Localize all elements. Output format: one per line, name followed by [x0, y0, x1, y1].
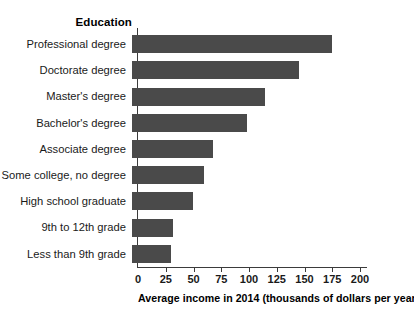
bar-row: Professional degree [0, 31, 414, 57]
bar-row: Doctorate degree [0, 57, 414, 83]
bar [132, 219, 173, 237]
x-tick-mark [360, 267, 361, 272]
bar-container [132, 57, 299, 83]
x-tick-mark [249, 267, 250, 272]
bar-category-label: Less than 9th grade [0, 248, 132, 260]
bar-category-label: Bachelor's degree [0, 117, 132, 129]
bar-rows: Professional degreeDoctorate degreeMaste… [0, 31, 414, 267]
bar-category-label: Professional degree [0, 38, 132, 50]
bar-row: High school graduate [0, 188, 414, 214]
bar-category-label: Some college, no degree [0, 169, 132, 181]
bar-row: Associate degree [0, 136, 414, 162]
bar-container [132, 241, 171, 267]
bar-category-label: Associate degree [0, 143, 132, 155]
bar-row: Less than 9th grade [0, 241, 414, 267]
bar-category-label: Doctorate degree [0, 64, 132, 76]
bar-container [132, 83, 265, 109]
x-tick-mark [221, 267, 222, 272]
bar-row: 9th to 12th grade [0, 215, 414, 241]
x-tick-mark [166, 267, 167, 272]
x-tick-mark [277, 267, 278, 272]
bar [132, 166, 204, 184]
x-tick-label: 25 [160, 273, 172, 285]
x-tick-label: 150 [295, 273, 313, 285]
bar [132, 88, 265, 106]
bar-category-label: Master's degree [0, 90, 132, 102]
bar [132, 245, 171, 263]
bar-container [132, 215, 173, 241]
x-tick-label: 200 [351, 273, 369, 285]
x-axis-title: Average income in 2014 (thousands of dol… [138, 292, 383, 304]
x-tick-mark [332, 267, 333, 272]
bar-row: Master's degree [0, 83, 414, 109]
bar-container [132, 188, 193, 214]
x-tick-label: 0 [135, 273, 141, 285]
category-axis-title: Education [0, 16, 132, 28]
bar-container [132, 162, 204, 188]
x-tick-mark [305, 267, 306, 272]
x-tick-label: 125 [268, 273, 286, 285]
bar-row: Some college, no degree [0, 162, 414, 188]
bar [132, 192, 193, 210]
bar-category-label: High school graduate [0, 195, 132, 207]
bar-chart: Education Professional degreeDoctorate d… [0, 0, 414, 323]
bar [132, 140, 213, 158]
x-tick-label: 75 [215, 273, 227, 285]
bar-container [132, 110, 247, 136]
bar [132, 35, 332, 53]
x-tick-label: 50 [187, 273, 199, 285]
x-tick-mark [194, 267, 195, 272]
bar [132, 61, 299, 79]
bar-category-label: 9th to 12th grade [0, 221, 132, 233]
bar-container [132, 31, 332, 57]
bar-container [132, 136, 213, 162]
x-tick-label: 175 [323, 273, 341, 285]
x-tick-label: 100 [240, 273, 258, 285]
bar [132, 114, 247, 132]
bar-row: Bachelor's degree [0, 110, 414, 136]
